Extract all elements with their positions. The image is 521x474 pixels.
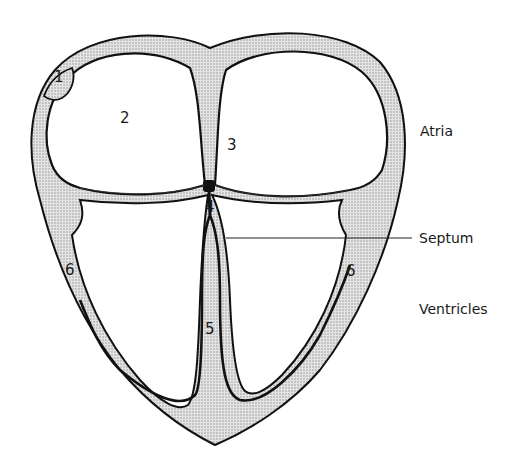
label-6-right: 6 [346, 262, 356, 280]
label-6-left: 6 [65, 261, 75, 279]
av-node-spot [203, 180, 215, 192]
label-3: 3 [227, 136, 237, 154]
ventricles-label: Ventricles [419, 301, 488, 317]
label-2: 2 [120, 109, 130, 127]
label-1: 1 [54, 68, 64, 86]
heart-diagram: 1 2 3 4 5 6 6 Atria Septum Ventricles [0, 0, 521, 474]
septum-label: Septum [419, 230, 473, 246]
right-atrium-chamber [215, 51, 387, 196]
label-4: 4 [205, 198, 215, 216]
label-5: 5 [205, 320, 215, 338]
left-ventricle-chamber [72, 195, 208, 407]
atria-label: Atria [420, 123, 453, 139]
